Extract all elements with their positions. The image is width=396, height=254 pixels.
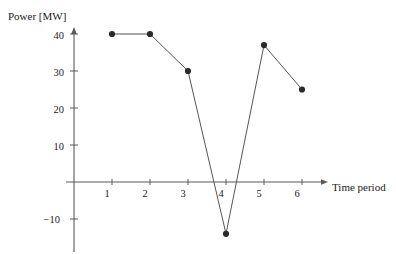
data-point-marker [147,31,153,37]
data-series-line [112,34,302,234]
data-point-marker [299,86,305,92]
chart-figure: Power [MW] Time period 40 30 20 10 −10 1… [0,0,396,254]
axis-group [66,27,328,252]
data-series-markers [109,31,305,237]
y-axis-arrow-icon [71,27,77,34]
data-point-marker [185,68,191,74]
data-point-marker [109,31,115,37]
data-point-marker [223,231,229,237]
data-point-marker [261,42,267,48]
plot-area [0,0,396,254]
x-axis-arrow-icon [321,179,328,185]
